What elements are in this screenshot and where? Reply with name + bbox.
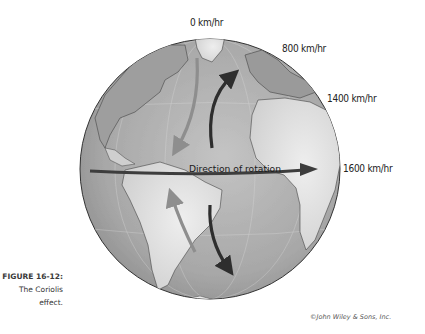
copyright-credit: ©John Wiley & Sons, Inc. bbox=[310, 313, 391, 321]
speed-label-pole: 0 km/hr bbox=[190, 17, 223, 28]
speed-label-mid-latitude: 1400 km/hr bbox=[327, 93, 376, 104]
figure-number: FIGURE 16-12: bbox=[0, 270, 63, 283]
rotation-label: Direction of rotation bbox=[189, 163, 281, 174]
figure-caption: FIGURE 16-12: The Coriolis effect. bbox=[0, 270, 63, 309]
caption-line-1: The Coriolis bbox=[0, 283, 63, 296]
speed-label-equator: 1600 km/hr bbox=[343, 163, 392, 174]
speed-label-high-latitude: 800 km/hr bbox=[282, 43, 326, 54]
caption-line-2: effect. bbox=[0, 296, 63, 309]
